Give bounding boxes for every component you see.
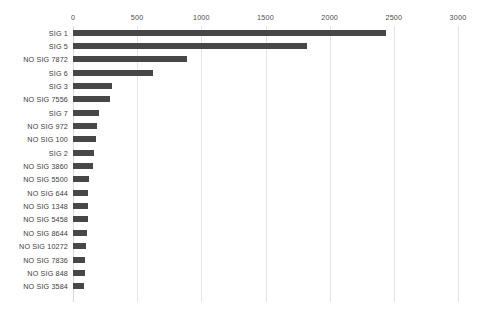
bar-rows: SIG 1SIG 5NO SIG 7872SIG 6SIG 3NO SIG 75… (0, 26, 485, 293)
bar-row: SIG 5 (0, 39, 485, 52)
category-label: SIG 7 (49, 108, 68, 117)
bar-row: NO SIG 7836 (0, 253, 485, 266)
bar-row: NO SIG 7872 (0, 53, 485, 66)
bar (73, 70, 153, 76)
bar (73, 56, 187, 62)
bar-row: SIG 7 (0, 106, 485, 119)
category-label: NO SIG 100 (27, 135, 68, 144)
x-axis-tick-label: 500 (131, 13, 144, 22)
bar (73, 30, 386, 36)
bar-row: NO SIG 5500 (0, 173, 485, 186)
x-axis-tick-label: 1500 (257, 13, 274, 22)
bar-row: NO SIG 3584 (0, 280, 485, 293)
bar-row: SIG 2 (0, 146, 485, 159)
bar-row: SIG 3 (0, 79, 485, 92)
bar (73, 123, 97, 129)
category-label: NO SIG 7872 (23, 55, 68, 64)
x-axis-tick-label: 2000 (321, 13, 338, 22)
category-label: NO SIG 8644 (23, 228, 68, 237)
bar (73, 110, 99, 116)
category-label: NO SIG 5458 (23, 215, 68, 224)
bar-row: NO SIG 3860 (0, 159, 485, 172)
bar (73, 43, 307, 49)
category-label: SIG 1 (49, 28, 68, 37)
bar-row: NO SIG 100 (0, 133, 485, 146)
bar (73, 270, 85, 276)
category-label: NO SIG 972 (27, 122, 68, 131)
bar (73, 216, 88, 222)
category-label: NO SIG 3584 (23, 282, 68, 291)
category-label: SIG 6 (49, 68, 68, 77)
bar-row: NO SIG 10272 (0, 240, 485, 253)
bar (73, 283, 84, 289)
category-label: NO SIG 5500 (23, 175, 68, 184)
bar-row: NO SIG 5458 (0, 213, 485, 226)
bar (73, 83, 112, 89)
bar-row: NO SIG 7556 (0, 93, 485, 106)
bar (73, 243, 86, 249)
category-label: NO SIG 1348 (23, 202, 68, 211)
category-label: SIG 2 (49, 148, 68, 157)
x-axis-tick-label: 3000 (450, 13, 467, 22)
bar-row: SIG 6 (0, 66, 485, 79)
category-label: NO SIG 848 (27, 268, 68, 277)
bar-row: NO SIG 8644 (0, 226, 485, 239)
category-label: NO SIG 644 (27, 188, 68, 197)
category-label: NO SIG 10272 (19, 242, 68, 251)
x-axis-tick-label: 0 (71, 13, 75, 22)
bar-row: NO SIG 1348 (0, 199, 485, 212)
bar (73, 96, 110, 102)
bar (73, 203, 88, 209)
bar (73, 163, 93, 169)
bar (73, 150, 94, 156)
bar (73, 136, 96, 142)
bar-row: NO SIG 848 (0, 266, 485, 279)
category-label: SIG 3 (49, 82, 68, 91)
bar (73, 176, 89, 182)
bar-row: SIG 1 (0, 26, 485, 39)
category-label: NO SIG 7836 (23, 255, 68, 264)
x-axis-tick-label: 2500 (385, 13, 402, 22)
bar-chart: SIG 1SIG 5NO SIG 7872SIG 6SIG 3NO SIG 75… (0, 0, 485, 324)
bar-row: NO SIG 644 (0, 186, 485, 199)
bar (73, 190, 88, 196)
category-label: NO SIG 7556 (23, 95, 68, 104)
bar-row: NO SIG 972 (0, 119, 485, 132)
bar (73, 230, 87, 236)
category-label: SIG 5 (49, 42, 68, 51)
bar (73, 257, 85, 263)
category-label: NO SIG 3860 (23, 162, 68, 171)
x-axis-tick-label: 1000 (193, 13, 210, 22)
